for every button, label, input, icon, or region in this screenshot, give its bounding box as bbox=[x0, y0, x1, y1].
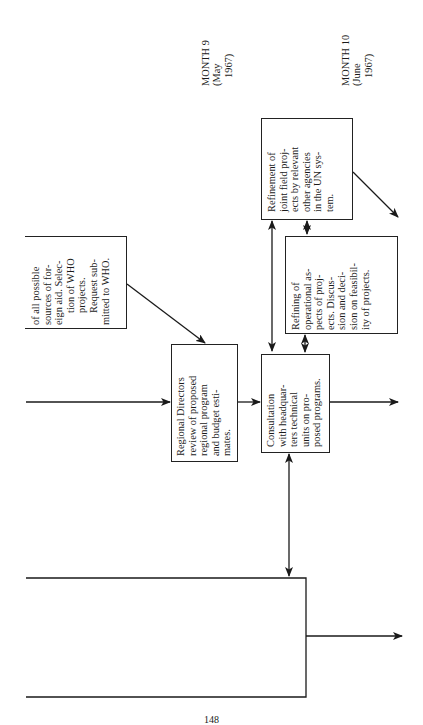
month-year: 1967) bbox=[363, 35, 374, 86]
month-year: 1967) bbox=[223, 40, 234, 86]
month-name: (May bbox=[211, 40, 222, 86]
flowchart-page: MONTH 9 (May 1967) MONTH 10 (June 1967) … bbox=[0, 0, 423, 725]
box-consultation-headquarters-text: Consultation with headquar- ters technic… bbox=[265, 378, 323, 447]
month-label: MONTH 10 bbox=[340, 35, 351, 86]
box-regional-directors-review-text: Regional Directors review of proposed re… bbox=[175, 376, 233, 456]
timeline-month-9: MONTH 9 (May 1967) bbox=[200, 40, 234, 86]
month-name: (June bbox=[351, 35, 362, 86]
box-foreign-aid-selection-text: of all possible sources of for- eign aid… bbox=[30, 258, 111, 325]
box-refinement-joint-projects-text: Refinement of joint field proj- ects by … bbox=[266, 147, 336, 212]
month-label: MONTH 9 bbox=[200, 40, 211, 86]
box-refining-operational-text: Refining of operational as- pects of pro… bbox=[290, 263, 371, 330]
timeline-month-10: MONTH 10 (June 1967) bbox=[340, 35, 374, 86]
page-number: 148 bbox=[0, 714, 423, 725]
